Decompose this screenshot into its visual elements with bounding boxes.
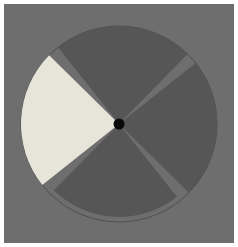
figure-container: Four-sector disc with one highlighted li… — [0, 0, 238, 247]
pie-chart-svg: Four-sector disc with one highlighted li… — [0, 0, 238, 247]
center-hub-icon — [114, 119, 125, 130]
